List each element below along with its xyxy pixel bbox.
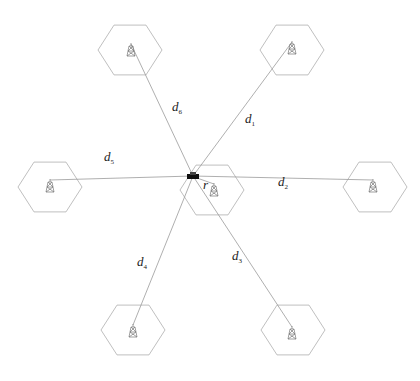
link-c3 [193,176,292,327]
tower-icon [46,179,54,192]
link-c6 [131,44,193,176]
label-d1: d1 [245,112,255,128]
cell-hexagons [18,25,407,355]
label-d2: d2 [278,175,288,191]
label-d5: d5 [104,150,114,166]
label-d6: d6 [172,100,182,116]
label-d4: d4 [137,255,147,271]
tower-icon [288,41,296,54]
label-d3: d3 [232,249,242,265]
vehicle-icon [187,172,199,179]
tower-icon [288,326,296,339]
distance-links [50,42,373,327]
cell-hexagon-c1 [260,25,324,75]
tower-icon [129,324,137,337]
cell-hexagon-c6 [98,25,162,75]
link-c4 [133,176,193,325]
tower-icon [127,43,135,56]
network-diagram [0,0,420,381]
label-r: r [203,178,208,191]
tower-icon [369,179,377,192]
link-c5 [50,176,193,180]
link-c1 [193,42,292,176]
base-station-towers [46,41,377,339]
cell-hexagon-c4 [101,305,165,355]
tower-icon [210,183,218,196]
